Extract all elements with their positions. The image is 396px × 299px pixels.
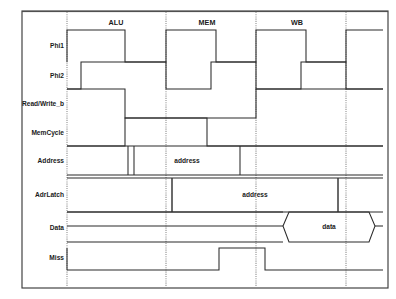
phase-labels: ALU MEM WB <box>109 18 303 27</box>
timing-diagram-root: ALU MEM WB Phi1 Phi2 Read/Write_b MemCyc… <box>0 0 396 299</box>
waveform-miss <box>67 248 383 270</box>
signal-label-memcycle: MemCycle <box>31 129 64 137</box>
waveform-traces <box>67 30 383 270</box>
phase-label-wb: WB <box>291 18 303 27</box>
bus-adrlatch-value: address <box>242 191 268 198</box>
bus-adrlatch: address <box>67 178 383 212</box>
signal-label-phi2: Phi2 <box>50 72 64 79</box>
waveform-phi1 <box>67 30 383 62</box>
waveform-read-write-b <box>67 89 383 118</box>
bus-data: data <box>67 212 383 242</box>
phase-label-alu: ALU <box>109 18 124 27</box>
waveform-memcycle <box>67 118 383 146</box>
signal-label-data: Data <box>50 224 65 231</box>
timing-diagram-canvas: ALU MEM WB Phi1 Phi2 Read/Write_b MemCyc… <box>0 0 396 299</box>
bus-data-value: data <box>322 223 336 230</box>
cycle-boundary-markers <box>67 12 346 287</box>
signal-label-read-write-b: Read/Write_b <box>22 100 64 107</box>
signal-labels: Phi1 Phi2 Read/Write_b MemCycle Address … <box>22 42 64 261</box>
signal-label-miss: Miss <box>49 254 64 261</box>
waveform-phi2 <box>67 62 383 89</box>
signal-label-phi1: Phi1 <box>50 42 64 49</box>
diagram-frame <box>22 11 388 288</box>
bus-address: address <box>67 146 383 175</box>
phase-label-mem: MEM <box>199 18 216 27</box>
signal-label-address: Address <box>38 157 65 164</box>
row-rails <box>67 212 283 270</box>
signal-label-adrlatch: AdrLatch <box>35 191 64 198</box>
bus-address-value: address <box>174 157 200 164</box>
